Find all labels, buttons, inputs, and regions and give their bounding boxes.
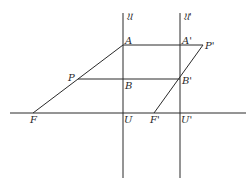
label-p-prime: P' xyxy=(204,40,214,51)
label-f-prime: F' xyxy=(149,114,160,125)
label-u-prime-axis: 𝔘' xyxy=(183,11,192,22)
diagram-canvas: 𝔘 𝔘' A A' P' P B B' F U F' U' xyxy=(0,0,250,186)
label-u-prime: U' xyxy=(181,114,192,125)
label-u-axis: 𝔘 xyxy=(126,11,134,22)
label-u: U xyxy=(124,114,133,125)
label-f: F xyxy=(29,114,38,125)
construction-figure: 𝔘 𝔘' A A' P' P B B' F U F' U' xyxy=(0,0,250,186)
label-p: P xyxy=(67,72,75,83)
label-b: B xyxy=(124,80,132,91)
label-a: A xyxy=(124,35,132,46)
label-b-prime: B' xyxy=(181,75,192,86)
label-a-prime: A' xyxy=(181,35,192,46)
